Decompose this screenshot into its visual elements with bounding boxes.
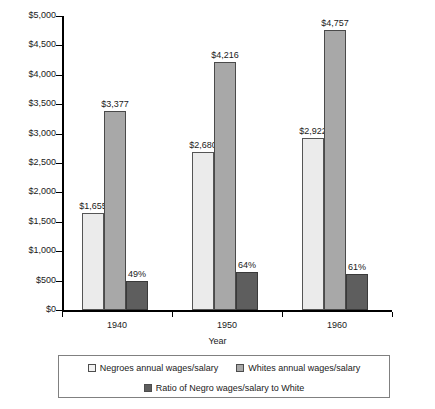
y-tick-label: $4,500 [4,40,56,49]
bar-1940-series1[interactable] [104,111,126,310]
y-tick-label: $3,500 [4,99,56,108]
legend-item-whites[interactable]: Whites annual wages/salary [236,363,360,373]
plot-area: $1,655$3,37749%$2,680$4,21664%$2,922$4,7… [62,16,392,310]
bar-1950-series2[interactable] [236,272,258,310]
x-tick-label-1960: 1960 [302,320,372,330]
x-axis-line [62,310,392,312]
chart-legend: Negroes annual wages/salary Whites annua… [58,355,390,398]
bar-value-label: 64% [225,260,269,270]
legend-row-top: Negroes annual wages/salary Whites annua… [59,358,389,378]
y-tick-label: $4,000 [4,70,56,79]
bar-value-label: 49% [115,269,159,279]
legend-item-ratio[interactable]: Ratio of Negro wages/salary to White [144,383,305,393]
legend-swatch-negroes-icon [88,364,96,372]
y-tick-label: $3,000 [4,129,56,138]
legend-label-negroes: Negroes annual wages/salary [100,363,219,373]
bar-value-label: $4,757 [313,18,357,28]
bar-1950-series1[interactable] [214,62,236,310]
y-tick-label: $1,500 [4,217,56,226]
x-tick-label-1950: 1950 [192,320,262,330]
x-tick-mark-origin [62,312,63,317]
legend-item-negroes[interactable]: Negroes annual wages/salary [88,363,219,373]
bar-value-label: $4,216 [203,50,247,60]
bar-value-label: 61% [335,262,379,272]
bar-1960-series2[interactable] [346,274,368,310]
x-axis-title: Year [0,336,435,346]
legend-label-whites: Whites annual wages/salary [248,363,360,373]
y-tick-label: $500 [4,276,56,285]
y-tick-label: $1,000 [4,246,56,255]
y-tick-label: $2,000 [4,187,56,196]
legend-swatch-ratio-icon [144,384,152,392]
y-tick-label: $2,500 [4,158,56,167]
x-tick-mark [392,312,393,317]
y-tick-label: $5,000 [4,11,56,20]
x-tick-mark [172,312,173,317]
y-tick-label: $0 [4,305,56,314]
bar-value-label: $3,377 [93,99,137,109]
legend-row-bottom: Ratio of Negro wages/salary to White [59,378,389,398]
bar-chart: $0$500$1,000$1,500$2,000$2,500$3,000$3,5… [0,0,435,409]
x-tick-label-1940: 1940 [82,320,152,330]
x-tick-mark [282,312,283,317]
bar-1940-series2[interactable] [126,281,148,310]
legend-swatch-whites-icon [236,364,244,372]
bar-1940-series0[interactable] [82,213,104,310]
legend-label-ratio: Ratio of Negro wages/salary to White [156,383,305,393]
bar-1950-series0[interactable] [192,152,214,310]
bar-1960-series0[interactable] [302,138,324,310]
